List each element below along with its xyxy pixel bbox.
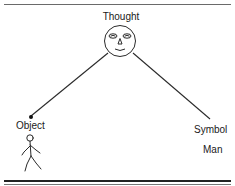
edge-thought-symbol bbox=[133, 53, 210, 119]
symbol-example-label: Man bbox=[203, 144, 222, 156]
stick-figure-icon bbox=[22, 135, 41, 171]
thought-label: Thought bbox=[102, 11, 140, 23]
face-icon bbox=[105, 26, 136, 57]
object-label: Object bbox=[16, 120, 45, 132]
object-point-dot bbox=[29, 115, 33, 119]
bottom-rule-thin bbox=[4, 184, 231, 185]
edge-thought-object bbox=[31, 53, 108, 116]
bottom-rule-thick bbox=[4, 180, 231, 182]
diagram-canvas bbox=[0, 0, 235, 186]
symbol-label: Symbol bbox=[194, 124, 227, 136]
